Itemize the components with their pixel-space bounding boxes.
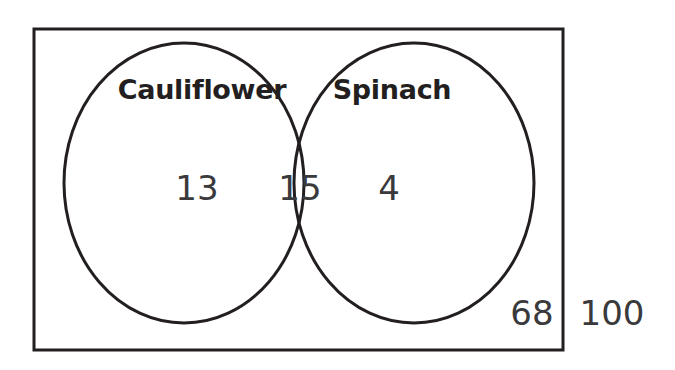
set-label-spinach: Spinach bbox=[333, 76, 452, 103]
count-cauliflower-only: 13 bbox=[175, 171, 218, 205]
venn-diagram-figure: Cauliflower Spinach 13 15 4 68 100 bbox=[0, 0, 675, 370]
set-label-cauliflower: Cauliflower bbox=[118, 76, 287, 103]
count-outside-both-sets: 68 bbox=[510, 296, 553, 330]
venn-diagram-canvas bbox=[0, 0, 675, 370]
count-universal-set-total: 100 bbox=[580, 296, 645, 330]
count-intersection: 15 bbox=[278, 171, 321, 205]
count-spinach-only: 4 bbox=[378, 171, 400, 205]
